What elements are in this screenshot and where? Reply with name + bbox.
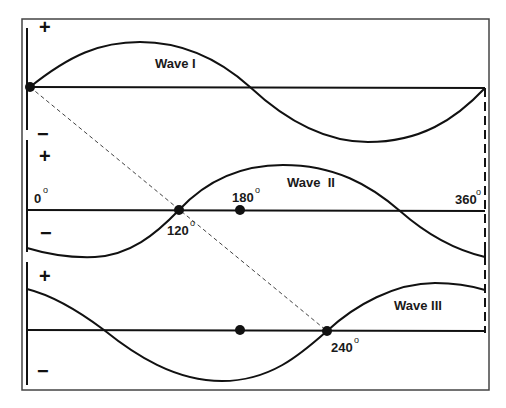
svg-text:o: o xyxy=(190,218,195,228)
wave-2-minus-sign: − xyxy=(40,222,52,244)
wave-1-label: Wave I xyxy=(155,56,196,71)
svg-text:o: o xyxy=(43,185,48,195)
wave-1-baseline xyxy=(30,87,485,88)
wave-1 xyxy=(25,42,485,142)
svg-text:0: 0 xyxy=(34,191,41,206)
waveform-canvas: + − + − + − Wave I Wave II Wave III 0 o … xyxy=(0,0,506,408)
wave-2-baseline xyxy=(27,210,485,211)
degree-240-label: 240 o xyxy=(331,335,359,355)
wave-2-plus-sign: + xyxy=(39,145,51,167)
wave-1-curve xyxy=(30,42,485,142)
svg-text:o: o xyxy=(255,185,260,195)
degree-180-label: 180 o xyxy=(232,185,260,205)
outer-frame xyxy=(22,19,489,390)
wave-3-baseline xyxy=(27,330,485,331)
degree-0-label: 0 o xyxy=(34,185,48,206)
wave-3-plus-sign: + xyxy=(39,265,51,287)
svg-text:120: 120 xyxy=(167,223,189,238)
wave-2-180-dot xyxy=(235,205,245,215)
degree-120-label: 120 o xyxy=(167,218,195,238)
wave-2-120-dot xyxy=(174,205,184,215)
wave-3-240-dot xyxy=(322,326,332,336)
wave-3-label: Wave III xyxy=(394,298,442,313)
wave-2-label: Wave II xyxy=(287,175,335,190)
wave-1-plus-sign: + xyxy=(39,16,51,38)
wave-2 xyxy=(27,165,485,262)
svg-text:o: o xyxy=(476,187,481,197)
svg-text:180: 180 xyxy=(232,190,254,205)
wave-1-minus-sign: − xyxy=(37,123,49,145)
svg-text:240: 240 xyxy=(331,340,353,355)
wave-3-180-dot xyxy=(235,325,245,335)
svg-text:o: o xyxy=(354,335,359,345)
degree-360-label: 360 o xyxy=(455,187,481,207)
wave-3-minus-sign: − xyxy=(37,360,49,382)
wave-1-origin-dot xyxy=(25,82,35,92)
three-phase-diagram: + − + − + − Wave I Wave II Wave III 0 o … xyxy=(0,0,506,408)
svg-text:360: 360 xyxy=(455,192,477,207)
